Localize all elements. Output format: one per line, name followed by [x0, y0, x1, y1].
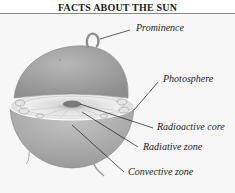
prominence-shape	[87, 34, 99, 48]
label-convective-zone: Convective zone	[128, 166, 193, 177]
label-radiative-zone: Radiative zone	[143, 141, 202, 152]
label-photosphere: Photosphere	[163, 73, 213, 84]
radioactive-core-shape	[63, 101, 81, 108]
leader-photosphere	[134, 82, 158, 110]
leader-prominence	[100, 30, 130, 39]
label-radioactive-core: Radioactive core	[157, 121, 225, 132]
label-prominence: Prominence	[136, 22, 184, 33]
sun-cutaway-illustration	[0, 0, 235, 193]
sun-upper-dome	[14, 46, 128, 98]
